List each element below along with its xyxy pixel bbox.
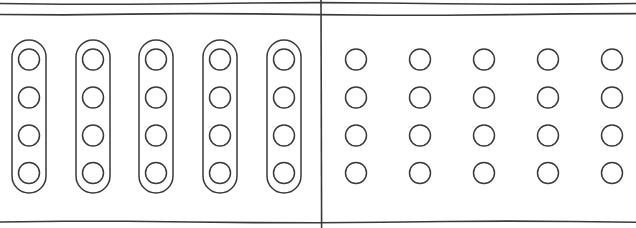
node-circle-left-panel-c1-r2 <box>19 87 40 108</box>
node-circle-left-panel-c2-r3 <box>83 125 104 146</box>
node-circle-left-panel-c5-r1 <box>274 49 295 70</box>
top-rule-lower <box>0 14 636 16</box>
node-circle-right-panel-c3-r4 <box>474 163 495 184</box>
node-circle-right-panel-c3-r3 <box>474 125 495 146</box>
top-rule-upper <box>0 3 636 5</box>
node-circle-right-panel-c5-r3 <box>602 125 623 146</box>
bottom-rule <box>0 221 636 223</box>
node-circle-right-panel-c4-r4 <box>538 163 559 184</box>
node-circle-left-panel-c4-r3 <box>210 125 231 146</box>
node-circle-right-panel-c2-r3 <box>410 125 431 146</box>
node-circle-left-panel-c1-r1 <box>19 49 40 70</box>
vertical-divider <box>321 0 322 228</box>
right-panel-group <box>346 49 623 184</box>
vertical-divider-group <box>321 0 322 228</box>
node-circle-right-panel-c1-r4 <box>346 163 367 184</box>
node-circle-left-panel-c1-r3 <box>19 125 40 146</box>
node-circle-right-panel-c5-r1 <box>602 49 623 70</box>
node-circle-left-panel-c3-r1 <box>146 49 167 70</box>
node-circle-right-panel-c3-r2 <box>474 87 495 108</box>
diagram-svg <box>0 0 636 228</box>
node-circle-right-panel-c5-r2 <box>602 87 623 108</box>
node-circle-left-panel-c1-r4 <box>19 163 40 184</box>
node-circle-left-panel-c5-r2 <box>274 87 295 108</box>
node-circle-left-panel-c5-r4 <box>274 163 295 184</box>
node-circle-right-panel-c2-r1 <box>410 49 431 70</box>
node-circle-left-panel-c4-r2 <box>210 87 231 108</box>
node-circle-left-panel-c3-r4 <box>146 163 167 184</box>
node-circle-right-panel-c4-r1 <box>538 49 559 70</box>
node-circle-right-panel-c3-r1 <box>474 49 495 70</box>
node-circle-left-panel-c2-r2 <box>83 87 104 108</box>
node-circle-right-panel-c2-r4 <box>410 163 431 184</box>
node-circle-right-panel-c5-r4 <box>602 163 623 184</box>
node-circle-left-panel-c5-r3 <box>274 125 295 146</box>
node-circle-left-panel-c3-r2 <box>146 87 167 108</box>
node-circle-right-panel-c4-r3 <box>538 125 559 146</box>
node-circle-left-panel-c2-r1 <box>83 49 104 70</box>
node-circle-right-panel-c1-r3 <box>346 125 367 146</box>
node-circle-left-panel-c4-r1 <box>210 49 231 70</box>
node-circle-left-panel-c3-r3 <box>146 125 167 146</box>
node-circle-right-panel-c2-r2 <box>410 87 431 108</box>
diagram-canvas <box>0 0 636 228</box>
node-circle-right-panel-c1-r2 <box>346 87 367 108</box>
node-circle-right-panel-c4-r2 <box>538 87 559 108</box>
node-circle-right-panel-c1-r1 <box>346 49 367 70</box>
node-circle-left-panel-c4-r4 <box>210 163 231 184</box>
node-circle-left-panel-c2-r4 <box>83 163 104 184</box>
left-panel-group <box>12 40 301 193</box>
